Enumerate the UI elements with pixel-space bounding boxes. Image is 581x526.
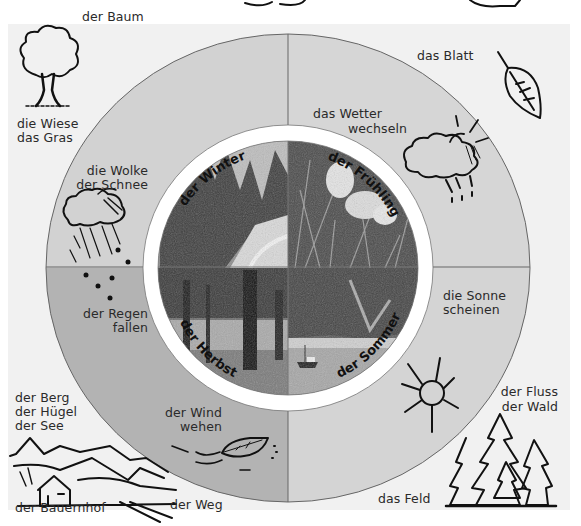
word-der-wind: der Wind	[150, 405, 222, 420]
word-das-feld: das Feld	[378, 491, 431, 506]
tree-icon	[20, 26, 78, 106]
word-der-baum: der Baum	[82, 9, 144, 24]
word-die-sonne: die Sonne	[443, 288, 506, 303]
word-der-huegel: der Hügel	[15, 404, 77, 419]
word-fallen: fallen	[70, 320, 148, 335]
word-die-wiese: die Wiese	[17, 116, 78, 131]
word-das-blatt: das Blatt	[417, 48, 474, 63]
word-der-bauernhof: der Bauernhof	[15, 500, 106, 515]
word-der-wald: der Wald	[486, 399, 558, 414]
leaf-icon	[498, 52, 541, 118]
word-das-gras: das Gras	[17, 130, 73, 145]
word-der-regen: der Regen	[70, 306, 148, 321]
word-wehen: wehen	[150, 419, 222, 434]
word-der-weg: der Weg	[170, 497, 223, 512]
word-der-schnee: der Schnee	[74, 177, 148, 192]
word-der-berg: der Berg	[15, 390, 70, 405]
word-der-see: der See	[15, 418, 64, 433]
season-wheel: der Winter der Frühling der Sommer der H…	[0, 0, 581, 526]
word-die-wolke: die Wolke	[84, 163, 148, 178]
word-das-wetter: das Wetter	[313, 106, 382, 121]
word-der-fluss: der Fluss	[486, 384, 558, 399]
partial-drawing-top-left	[245, 0, 305, 5]
partial-drawing-top-right	[470, 0, 520, 6]
word-scheinen: scheinen	[443, 302, 500, 317]
word-wechseln: wechseln	[348, 121, 407, 136]
